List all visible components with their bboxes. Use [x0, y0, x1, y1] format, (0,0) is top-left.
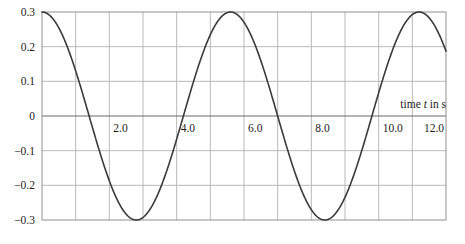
- chart-container: 0.30.20.10−0.1−0.2−0.3 2.04.06.08.010.01…: [0, 0, 465, 244]
- y-tick-label: 0.1: [21, 75, 36, 87]
- y-tick-label: −0.2: [14, 179, 35, 191]
- y-tick-label: 0.2: [21, 41, 36, 53]
- x-tick-label: 2.0: [113, 122, 128, 134]
- line-chart: 0.30.20.10−0.1−0.2−0.3 2.04.06.08.010.01…: [0, 0, 465, 244]
- x-tick-label: 8.0: [315, 122, 330, 134]
- x-axis-label: time t in s: [400, 98, 446, 110]
- x-axis-label-prefix: time: [400, 98, 423, 110]
- x-tick-label: 4.0: [181, 122, 196, 134]
- y-tick-label: 0: [29, 110, 35, 122]
- x-tick-label: 12.0: [424, 122, 444, 134]
- y-tick-label: −0.3: [14, 214, 35, 226]
- x-tick-label: 6.0: [248, 122, 263, 134]
- y-tick-label: 0.3: [21, 6, 36, 18]
- x-tick-label: 10.0: [383, 122, 403, 134]
- y-axis-tick-labels: 0.30.20.10−0.1−0.2−0.3: [14, 6, 35, 226]
- y-tick-label: −0.1: [14, 145, 35, 157]
- x-axis-label-suffix: in s: [427, 98, 447, 110]
